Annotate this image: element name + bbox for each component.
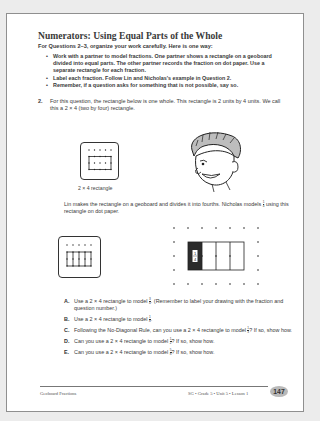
intro-text: For Questions 2–3, organize your work ca… [38,43,213,49]
figure-caption: 2 × 4 rectangle [78,185,112,191]
footer-lesson-info: SG • Grade 5 • Unit 5 • Lesson 1 [188,391,248,396]
geoboard-pegs-icon [58,236,101,278]
question-part-b: B. Use a 2 × 4 rectangle to model 18. [64,316,299,323]
instruction-item: Remember, if a question asks for somethi… [46,82,281,89]
student-character-icon [182,128,244,192]
fraction: 14 [263,201,265,208]
footer-divider [40,386,268,387]
geoboard-fourths [58,236,101,278]
question-part-d: D. Can you use a 2 × 4 rectangle to mode… [64,338,299,345]
question-part-c: C. Following the No-Diagonal Rule, can y… [64,327,299,334]
page-title: Numerators: Using Equal Parts of the Who… [38,30,222,41]
question-text: For this question, the rectangle below i… [50,98,283,113]
dot-paper-drawing: 1 4 [170,224,260,290]
example-paragraph: Lin makes the rectangle on a geoboard an… [64,201,294,216]
footer-section-title: Geoboard Fractions [40,391,76,396]
geoboard-pegs-icon [80,142,119,180]
question-part-e: E. Can you use a 2 × 4 rectangle to mode… [64,349,299,356]
question-2: 2. For this question, the rectangle belo… [38,98,283,113]
instruction-item: Work with a partner to model fractions. … [46,53,281,75]
question-part-a: A. Use a 2 × 4 rectangle to model 34. (R… [64,298,299,313]
instruction-item: Label each fraction. Follow Lin and Nich… [46,75,281,82]
question-parts: A. Use a 2 × 4 rectangle to model 34. (R… [64,298,299,360]
instructions-list: Work with a partner to model fractions. … [46,53,281,89]
page-number-badge: 147 [270,386,288,397]
geoboard-2x4 [80,142,119,180]
question-number: 2. [38,98,43,105]
paragraph-text: Lin makes the rectangle on a geoboard an… [64,201,261,207]
